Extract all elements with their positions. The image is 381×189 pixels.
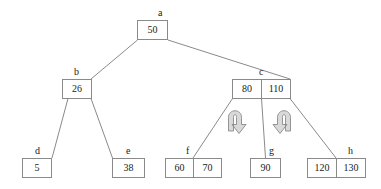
node-a: 50 — [137, 20, 168, 40]
edge-b-d — [52, 99, 68, 159]
node-e: 38 — [112, 158, 145, 178]
node-g: 90 — [250, 158, 281, 178]
node-label-h: h — [348, 146, 353, 156]
node-f-cell-0: 60 — [166, 159, 193, 177]
node-label-a: a — [158, 8, 162, 18]
node-label-c: c — [259, 67, 263, 77]
node-label-d: d — [35, 146, 40, 156]
node-label-e: e — [126, 146, 130, 156]
edge-a-b — [91, 40, 138, 79]
node-h-cell-1: 130 — [336, 159, 365, 177]
node-f: 60 70 — [165, 158, 222, 178]
edge-b-e — [91, 99, 113, 159]
node-d-cell-0: 5 — [23, 159, 51, 177]
node-g-cell-0: 90 — [251, 159, 280, 177]
node-c-cell-1: 110 — [261, 80, 290, 98]
node-label-b: b — [74, 67, 79, 77]
node-h: 120 130 — [307, 158, 366, 178]
left-rotation-arrow — [229, 111, 247, 134]
node-d: 5 — [22, 158, 52, 178]
edge-a-c — [168, 40, 290, 79]
node-f-cell-1: 70 — [193, 159, 221, 177]
node-b-cell-0: 26 — [63, 80, 91, 98]
node-c-cell-0: 80 — [233, 80, 261, 98]
tree-edges — [52, 40, 336, 158]
right-rotation-arrow — [273, 111, 291, 134]
edge-c-g — [262, 99, 266, 159]
node-b: 26 — [62, 79, 92, 99]
node-a-cell-0: 50 — [138, 21, 167, 39]
node-e-cell-0: 38 — [113, 159, 144, 177]
edge-c-f — [193, 99, 233, 159]
node-c: 80 110 — [232, 79, 291, 99]
node-label-g: g — [269, 146, 274, 156]
node-h-cell-0: 120 — [308, 159, 336, 177]
edge-c-h — [290, 99, 336, 159]
node-label-f: f — [186, 146, 189, 156]
